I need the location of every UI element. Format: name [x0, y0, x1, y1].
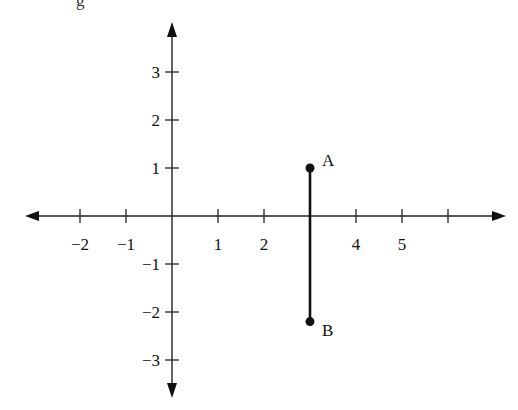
point-a	[306, 164, 315, 173]
x-axis-left-arrow-icon	[25, 211, 39, 221]
y-axis-up-arrow-icon	[167, 22, 177, 37]
point-label-a: A	[322, 151, 335, 170]
y-tick-label: −3	[142, 351, 160, 370]
x-tick-label: −1	[117, 235, 135, 254]
axes	[25, 22, 506, 398]
y-tick-label: −2	[142, 303, 160, 322]
x-tick-label: 2	[260, 235, 269, 254]
coordinate-plane: −2−11245321−1−2−3 AB	[0, 0, 518, 410]
x-axis-right-arrow-icon	[492, 211, 506, 221]
point-b	[306, 317, 315, 326]
x-tick-label: 5	[398, 235, 407, 254]
point-label-b: B	[322, 321, 333, 340]
x-tick-label: 4	[352, 235, 361, 254]
y-axis-down-arrow-icon	[167, 383, 177, 398]
y-tick-label: 2	[152, 111, 161, 130]
x-tick-label: 1	[214, 235, 223, 254]
x-tick-label: −2	[71, 235, 89, 254]
y-tick-label: −1	[142, 255, 160, 274]
y-tick-label: 3	[152, 63, 161, 82]
y-tick-label: 1	[152, 159, 161, 178]
